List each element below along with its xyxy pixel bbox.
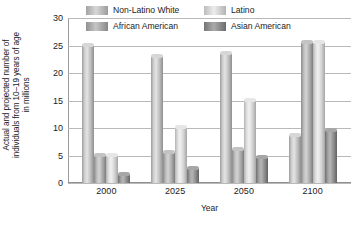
bar-group-2025 [151, 18, 199, 183]
bar-group-2000 [82, 18, 130, 183]
bar-body [151, 57, 163, 184]
y-axis-tick-label-30: 30 [53, 13, 63, 23]
bar-body [163, 153, 175, 183]
bar-2000-s1 [94, 156, 106, 184]
y-axis-title-line-1: Actual and projected number of [2, 32, 12, 158]
bar-body [256, 158, 268, 183]
legend-swatch-icon-non-latino-white [86, 6, 108, 15]
bar-cap [244, 98, 256, 102]
bar-2025-s2 [175, 128, 187, 183]
legend-label-non-latino-white: Non-Latino White [113, 5, 179, 15]
plot-area: 051015202530 [68, 18, 351, 183]
bar-body [175, 128, 187, 183]
bar-cap [106, 153, 118, 157]
bar-body [289, 136, 301, 183]
bar-groups [68, 18, 351, 183]
x-axis-tick-label-2000: 2000 [96, 186, 116, 200]
bar-2100-s2 [313, 43, 325, 183]
bar-2050-s1 [232, 150, 244, 183]
bar-2000-s3 [118, 175, 130, 183]
bar-cap [118, 172, 130, 176]
y-axis-title-line-2: individuals from 10–19 years of age [12, 32, 22, 158]
x-axis-title: Year [68, 203, 351, 213]
y-axis-tick-label-25: 25 [53, 41, 63, 51]
bar-body [244, 101, 256, 184]
y-axis-title: Actual and projected number of individua… [0, 0, 34, 190]
gridline-0 [68, 183, 351, 184]
bar-cap [220, 51, 232, 55]
bar-2050-s0 [220, 54, 232, 183]
bar-cap [94, 153, 106, 157]
bar-body [82, 46, 94, 184]
bar-cap [151, 54, 163, 58]
bar-body [106, 156, 118, 184]
bar-cap [232, 147, 244, 151]
bar-cap [256, 155, 268, 159]
y-axis-tick-label-15: 15 [53, 96, 63, 106]
bar-2100-s0 [289, 136, 301, 183]
bar-2050-s3 [256, 158, 268, 183]
bar-2050-s2 [244, 101, 256, 184]
bar-2100-s1 [301, 43, 313, 183]
bar-chart: Actual and projected number of individua… [0, 0, 360, 232]
bar-2025-s0 [151, 57, 163, 184]
bar-body [94, 156, 106, 184]
bar-2000-s2 [106, 156, 118, 184]
bar-2025-s3 [187, 169, 199, 183]
y-axis-tick-label-0: 0 [58, 178, 63, 188]
legend-item-latino: Latino [204, 5, 348, 15]
x-axis-tick-labels: 2000202520502100 [68, 186, 351, 200]
bar-cap [301, 40, 313, 44]
legend-swatch-icon-latino [204, 6, 226, 15]
legend-label-latino: Latino [231, 5, 254, 15]
bar-cap [163, 150, 175, 154]
bar-body [301, 43, 313, 183]
bar-body [313, 43, 325, 183]
y-axis-title-line-3: in millions [22, 32, 32, 158]
x-axis-tick-label-2100: 2100 [303, 186, 323, 200]
y-axis-tick-label-10: 10 [53, 123, 63, 133]
bar-cap [289, 133, 301, 137]
bar-2025-s1 [163, 153, 175, 183]
legend-item-non-latino-white: Non-Latino White [86, 5, 204, 15]
bar-2100-s3 [325, 131, 337, 183]
x-axis-tick-label-2025: 2025 [165, 186, 185, 200]
bar-cap [175, 125, 187, 129]
bar-cap [325, 128, 337, 132]
bar-group-2100 [289, 18, 337, 183]
bar-body [220, 54, 232, 183]
bar-body [187, 169, 199, 183]
x-axis-tick-label-2050: 2050 [234, 186, 254, 200]
bar-cap [187, 166, 199, 170]
bar-cap [313, 40, 325, 44]
bar-body [232, 150, 244, 183]
y-axis-tick-label-20: 20 [53, 68, 63, 78]
bar-cap [82, 43, 94, 47]
bar-body [325, 131, 337, 183]
bar-body [118, 175, 130, 183]
bar-group-2050 [220, 18, 268, 183]
y-axis-tick-label-5: 5 [58, 151, 63, 161]
bar-2000-s0 [82, 46, 94, 184]
